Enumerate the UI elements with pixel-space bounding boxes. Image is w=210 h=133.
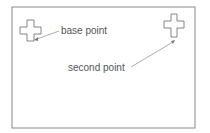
base-point-label: base point	[61, 26, 107, 36]
second-point-label: second point	[68, 63, 125, 73]
